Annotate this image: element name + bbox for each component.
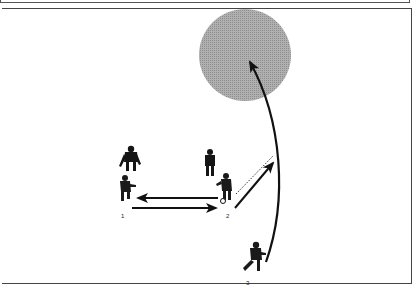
player-1-figure: [120, 175, 136, 201]
player-1-label: 1: [121, 213, 124, 219]
player-3-label: 3: [246, 280, 249, 286]
opponent-figure-a: [119, 146, 141, 171]
drill-diagram: [0, 0, 416, 288]
dotted-run-player-2: [236, 156, 273, 194]
dribble-arrow-player-2: [235, 163, 273, 208]
player-3-figure: [243, 242, 266, 271]
ball-icon: [221, 199, 226, 204]
player-2-figure: [216, 173, 232, 204]
player-2-label: 2: [226, 213, 229, 219]
opponent-figure-b: [205, 149, 215, 176]
target-zone-circle: [199, 9, 291, 101]
